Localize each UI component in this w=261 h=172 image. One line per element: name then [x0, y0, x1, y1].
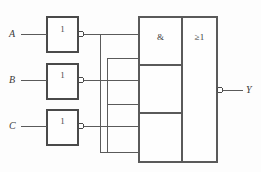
inverter-a-symbol: 1 [47, 25, 78, 34]
inverter-b-symbol: 1 [47, 71, 78, 80]
inverter-c-symbol: 1 [47, 117, 78, 126]
input-b-label: B [9, 75, 15, 85]
or-block-output-bubble [217, 87, 223, 93]
input-c-label: C [9, 121, 16, 131]
inverter-b-bubble [78, 77, 83, 82]
or-gate-symbol: ≥1 [182, 33, 217, 42]
logic-circuit-diagram: A B C 1 1 1 & ≥1 Y [0, 0, 261, 172]
inverter-a-bubble [78, 31, 83, 36]
output-y-label: Y [246, 85, 252, 95]
input-a-label: A [9, 29, 15, 39]
inverter-a-box [47, 17, 78, 52]
inverter-c-bubble [78, 123, 83, 128]
and-gate-symbol: & [139, 33, 182, 42]
circuit-wiring [0, 0, 261, 172]
